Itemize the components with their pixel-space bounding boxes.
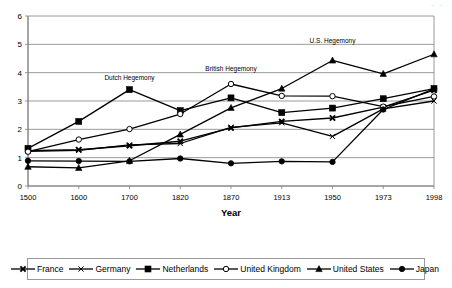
data-point-marker [431, 94, 436, 99]
legend-item-united-states[interactable]: United States [305, 263, 388, 275]
legend-item-label: Germany [95, 264, 130, 274]
data-point-marker [399, 266, 404, 271]
data-point-marker [279, 159, 284, 164]
legend-item-label: France [37, 264, 63, 274]
y-axis-tick-label: 1 [18, 154, 23, 163]
data-point-marker [381, 107, 386, 112]
chart-annotation: Dutch Hegemony [104, 74, 155, 82]
x-axis-tick-label: 1973 [375, 193, 392, 202]
data-point-marker [330, 159, 335, 164]
y-axis-tick-label: 2 [18, 125, 23, 134]
legend-marker-x-thin-icon [68, 263, 94, 275]
x-axis-title: Year [221, 207, 241, 218]
chart-plot-area: 0123456150016001700182018701913195019731… [0, 8, 452, 238]
y-axis-tick-label: 0 [18, 182, 23, 191]
data-point-marker [25, 149, 30, 154]
data-point-marker [330, 105, 336, 111]
line-chart: 0123456150016001700182018701913195019731… [0, 8, 452, 238]
data-point-marker [178, 111, 183, 116]
legend-marker-open-circle-icon [213, 263, 239, 275]
legend-marker-filled-square-icon [135, 263, 161, 275]
chart-page: ‥ ‥ 012345615001600170018201870191319501… [0, 0, 452, 288]
data-point-marker [329, 57, 335, 63]
x-axis-tick-label: 1950 [324, 193, 341, 202]
x-axis-tick-label: 1913 [273, 193, 290, 202]
data-point-marker [76, 137, 81, 142]
x-axis-tick-label: 1870 [223, 193, 240, 202]
data-point-marker [431, 51, 437, 57]
legend-item-united-kingdom[interactable]: United Kingdom [212, 263, 304, 275]
data-point-marker [127, 126, 132, 131]
legend-item-japan[interactable]: Japan [388, 263, 443, 275]
chart-legend: FranceGermanyNetherlandsUnited KingdomUn… [27, 258, 425, 280]
x-axis-tick-label: 1500 [20, 193, 37, 202]
data-point-marker [127, 87, 133, 93]
y-axis-tick-label: 4 [18, 69, 23, 78]
legend-item-label: United States [333, 264, 384, 274]
legend-item-label: Japan [416, 264, 439, 274]
x-axis-tick-label: 1820 [172, 193, 189, 202]
y-axis-tick-label: 5 [18, 40, 23, 49]
data-point-marker [178, 156, 183, 161]
data-point-marker [380, 96, 386, 102]
data-point-marker [127, 159, 132, 164]
legend-marker-filled-triangle-icon [306, 263, 332, 275]
legend-item-germany[interactable]: Germany [67, 263, 134, 275]
data-point-marker [145, 266, 151, 272]
series-line [28, 84, 434, 152]
data-point-marker [279, 110, 285, 116]
x-axis-tick-label: 1600 [70, 193, 87, 202]
data-point-marker [228, 81, 233, 86]
legend-item-label: Netherlands [162, 264, 208, 274]
legend-item-label: United Kingdom [240, 264, 300, 274]
y-axis-tick-label: 6 [18, 12, 23, 21]
data-point-marker [76, 118, 82, 124]
data-point-marker [228, 161, 233, 166]
x-axis-tick-label: 1700 [121, 193, 138, 202]
data-point-marker [279, 85, 285, 91]
data-point-marker [224, 266, 229, 271]
legend-marker-x-bold-icon [10, 263, 36, 275]
data-point-marker [279, 93, 284, 98]
data-point-marker [330, 93, 335, 98]
legend-item-france[interactable]: France [9, 263, 67, 275]
chart-annotation: U.S. Hegemony [310, 37, 357, 45]
top-partial-text: ‥ ‥ [431, 0, 444, 7]
x-axis-tick-label: 1998 [426, 193, 443, 202]
legend-item-netherlands[interactable]: Netherlands [134, 263, 212, 275]
data-point-marker [76, 158, 81, 163]
data-point-marker [228, 95, 234, 101]
data-point-marker [25, 158, 30, 163]
y-axis-tick-label: 3 [18, 97, 23, 106]
data-point-marker [177, 131, 183, 137]
chart-annotation: British Hegemony [205, 65, 257, 73]
data-point-marker [431, 86, 436, 91]
legend-marker-filled-circle-icon [389, 263, 415, 275]
